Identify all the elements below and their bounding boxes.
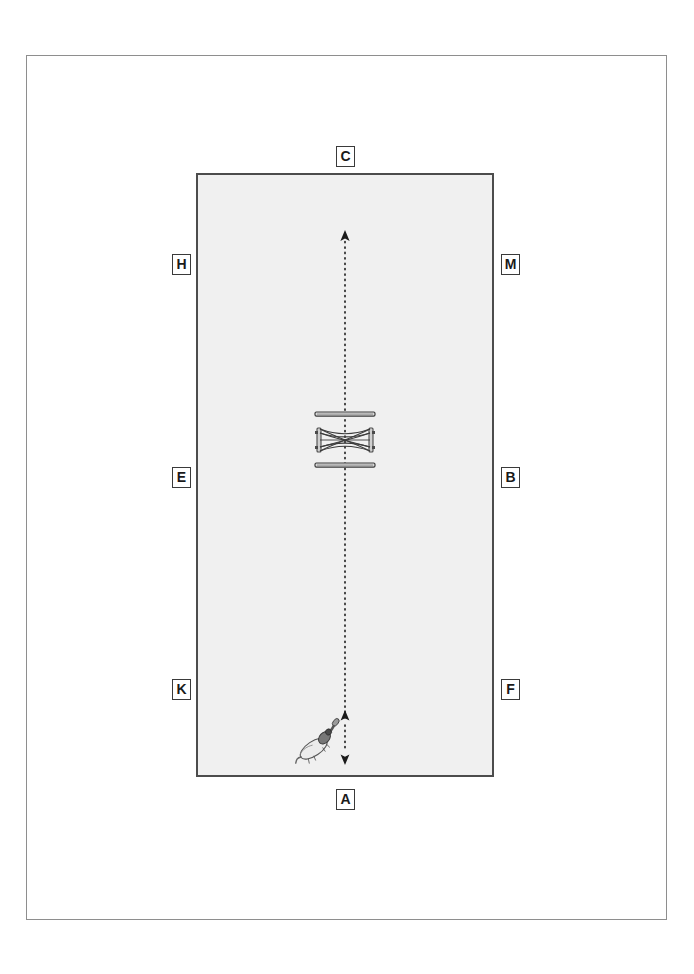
arena-container [196,173,494,777]
arena-marker-a[interactable]: A [336,789,355,810]
arena-marker-m[interactable]: M [501,254,520,275]
cross-rail-jump [306,405,384,475]
arena-marker-h[interactable]: H [172,254,191,275]
ground-pole-top [315,412,375,416]
page-canvas: C H M E B K F A [0,0,694,974]
horse-tail [294,756,302,763]
arena-marker-k[interactable]: K [172,679,191,700]
arena-marker-c[interactable]: C [336,146,355,167]
arena-marker-b[interactable]: B [501,467,520,488]
arena-marker-f[interactable]: F [501,679,520,700]
arena-marker-e[interactable]: E [172,467,191,488]
crossrail-body [315,428,375,452]
horse-and-rider [282,709,362,769]
ground-pole-bottom [315,463,375,467]
dressage-arena-rectangle [196,173,494,777]
